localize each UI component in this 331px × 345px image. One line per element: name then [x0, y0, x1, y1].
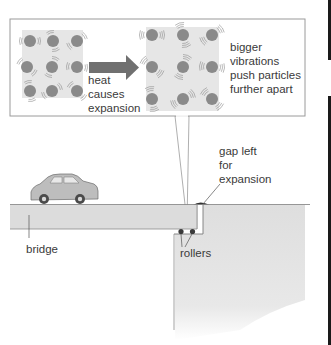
label-gap-line-3: expansion	[219, 173, 271, 185]
particle	[71, 35, 83, 47]
particle	[24, 35, 36, 47]
particle	[206, 29, 218, 41]
particle	[177, 61, 189, 73]
description-line-1: bigger	[230, 41, 262, 53]
particle	[177, 29, 189, 41]
roller-1	[178, 229, 183, 234]
car-icon	[31, 174, 98, 204]
hot-particles	[140, 22, 225, 111]
particle	[177, 93, 189, 105]
particle	[206, 61, 218, 73]
label-bridge: bridge	[26, 243, 58, 255]
label-gap-line-1: gap left	[219, 145, 258, 157]
particle	[206, 93, 218, 105]
roller-2	[190, 229, 195, 234]
gap-leader	[203, 184, 220, 204]
particle	[47, 35, 59, 47]
label-rollers: rollers	[180, 247, 212, 259]
diagram-thermal-expansion: heat causes expansion bigger vibrations …	[0, 0, 331, 345]
particle	[71, 61, 83, 73]
description-line-4: further apart	[230, 83, 293, 95]
particle	[24, 85, 36, 97]
label-gap-line-2: for	[219, 159, 233, 171]
particle	[21, 61, 33, 73]
arrow-label-line-1: heat	[88, 74, 111, 86]
cold-particles	[17, 31, 88, 102]
bridge-deck	[10, 205, 198, 229]
particle	[46, 61, 58, 73]
description-line-2: vibrations	[230, 55, 279, 67]
arrow-label-line-3: expansion	[88, 102, 140, 114]
description-line-3: push particles	[230, 69, 301, 81]
particle	[146, 29, 158, 41]
arrow-label-line-2: causes	[88, 88, 125, 100]
particle	[146, 93, 158, 105]
particle	[46, 85, 58, 97]
particle	[146, 61, 158, 73]
particle	[71, 85, 83, 97]
